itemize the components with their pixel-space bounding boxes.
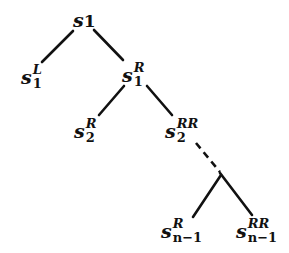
edge-s1R-to-s2RR bbox=[147, 86, 172, 115]
node-snm1R-sub: n−1 bbox=[173, 231, 202, 244]
node-snm1R-sup: R bbox=[173, 217, 202, 230]
tree-edges bbox=[0, 0, 289, 253]
node-s1-index: 1 bbox=[84, 11, 96, 31]
edge-branch-to-snm1RR bbox=[220, 173, 252, 215]
node-s1L-base: s bbox=[21, 66, 32, 88]
tree-diagram: s1 sL1 sR1 sR2 sRR2 sRn−1 sRRn−1 bbox=[0, 0, 289, 253]
node-s1R-sub: 1 bbox=[134, 75, 145, 88]
edge-s1R-to-s2R bbox=[99, 86, 124, 115]
node-snm1RR-sup: RR bbox=[248, 217, 277, 230]
node-s1-base: s bbox=[73, 9, 84, 31]
node-s1R-sup: R bbox=[134, 61, 145, 74]
node-s2R-sup: R bbox=[86, 117, 97, 130]
node-s1R: sR1 bbox=[122, 66, 145, 88]
node-s1L-sup: L bbox=[33, 63, 42, 76]
node-snm1RR-sub: n−1 bbox=[248, 231, 277, 244]
node-snm1R-base: s bbox=[161, 220, 172, 242]
edge-root-to-s1L bbox=[42, 31, 73, 62]
node-snm1RR-base: s bbox=[236, 220, 247, 242]
node-s2R-sub: 2 bbox=[86, 131, 97, 144]
node-s2RR-sub: 2 bbox=[177, 131, 199, 144]
node-snm1RR: sRRn−1 bbox=[236, 222, 277, 244]
edge-branch-to-snm1R bbox=[193, 175, 221, 217]
node-s2R: sR2 bbox=[74, 122, 97, 144]
node-s1L: sL1 bbox=[21, 68, 42, 90]
node-s2RR-base: s bbox=[165, 120, 176, 142]
node-s1R-base: s bbox=[122, 64, 133, 86]
node-s1L-sub: 1 bbox=[33, 77, 42, 90]
node-s2R-base: s bbox=[74, 120, 85, 142]
node-s2RR-sup: RR bbox=[177, 117, 199, 130]
node-s2RR: sRR2 bbox=[165, 122, 198, 144]
edge-s2RR-dashed bbox=[196, 143, 220, 172]
node-snm1R: sRn−1 bbox=[161, 222, 202, 244]
edge-root-to-s1R bbox=[94, 30, 123, 60]
node-s1: s1 bbox=[73, 11, 96, 30]
